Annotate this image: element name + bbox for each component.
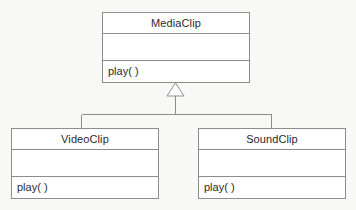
class-operations-compartment-videoclip: play( ) — [12, 176, 158, 198]
class-operation-videoclip-play: play( ) — [17, 182, 48, 193]
class-operation-soundclip-play: play( ) — [204, 182, 235, 193]
class-name-mediaclip: MediaClip — [151, 18, 201, 29]
class-attributes-compartment-mediaclip — [103, 33, 249, 60]
class-name-soundclip: SoundClip — [246, 134, 298, 145]
class-operations-compartment-soundclip: play( ) — [199, 176, 345, 198]
inheritance-triangle-icon — [167, 83, 184, 96]
class-operations-compartment-mediaclip: play( ) — [103, 60, 249, 82]
class-box-soundclip[interactable]: SoundClip play( ) — [198, 128, 346, 199]
class-name-compartment-soundclip: SoundClip — [199, 129, 345, 149]
class-attributes-compartment-videoclip — [12, 149, 158, 176]
class-box-videoclip[interactable]: VideoClip play( ) — [11, 128, 159, 199]
uml-diagram-canvas: MediaClip play( ) VideoClip play( ) Soun… — [0, 0, 356, 210]
class-name-compartment-videoclip: VideoClip — [12, 129, 158, 149]
class-name-videoclip: VideoClip — [61, 134, 109, 145]
class-attributes-compartment-soundclip — [199, 149, 345, 176]
class-box-mediaclip[interactable]: MediaClip play( ) — [102, 12, 250, 83]
class-operation-mediaclip-play: play( ) — [108, 66, 139, 77]
class-name-compartment-mediaclip: MediaClip — [103, 13, 249, 33]
